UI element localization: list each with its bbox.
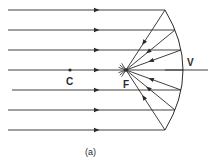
reflected-ray bbox=[126, 10, 165, 70]
label-c: C bbox=[66, 76, 73, 87]
label-f: F bbox=[123, 79, 129, 90]
center-of-curvature-point bbox=[68, 68, 71, 71]
label-v: V bbox=[187, 57, 194, 68]
focal-point bbox=[124, 68, 128, 72]
incident-ray-arrow bbox=[94, 28, 100, 32]
reflected-ray-arrow bbox=[148, 76, 155, 82]
concave-mirror-ray-diagram: C F V (a) bbox=[0, 0, 215, 161]
reflected-ray-arrow bbox=[148, 58, 155, 64]
incident-ray-arrow bbox=[94, 68, 100, 72]
rays bbox=[8, 8, 183, 132]
reflected-ray-arrow bbox=[140, 39, 147, 46]
incident-ray-arrow bbox=[94, 88, 100, 92]
incident-ray-arrow bbox=[94, 48, 100, 52]
incident-ray-arrow bbox=[94, 108, 100, 112]
reflected-ray bbox=[126, 70, 165, 130]
incident-ray-arrow bbox=[94, 128, 100, 132]
incident-ray-arrow bbox=[94, 8, 100, 12]
reflected-ray-arrow bbox=[140, 94, 147, 101]
figure-caption: (a) bbox=[85, 147, 96, 157]
